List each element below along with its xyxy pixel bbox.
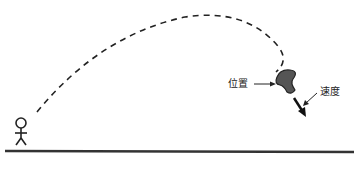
ground-line xyxy=(5,151,354,152)
velocity-arrow-icon xyxy=(294,98,306,117)
velocity-pointer-arrow xyxy=(303,93,317,106)
stick-figure-icon xyxy=(15,118,27,145)
position-label: 位置 xyxy=(228,79,248,89)
velocity-label: 速度 xyxy=(320,87,340,97)
projectile-shape xyxy=(276,70,295,93)
dashed-trajectory xyxy=(37,15,283,112)
position-pointer-arrow xyxy=(254,82,276,87)
trajectory-diagram xyxy=(0,0,358,177)
